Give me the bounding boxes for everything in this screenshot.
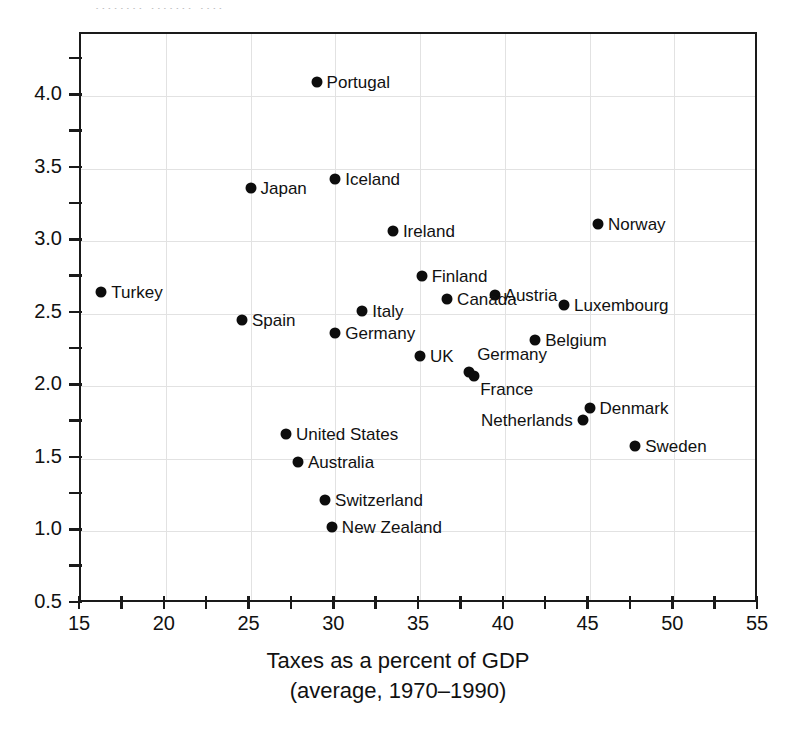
data-point-label: Germany [477, 346, 547, 363]
gridline-vertical [420, 34, 421, 600]
x-axis-tick-label: 55 [727, 612, 787, 635]
data-point-label: Portugal [327, 73, 390, 90]
y-axis-tick-label: 3.0 [0, 227, 62, 250]
x-axis-tick [713, 596, 716, 609]
data-point [592, 219, 603, 230]
data-point [357, 306, 368, 317]
data-point [530, 335, 541, 346]
y-axis-tick [69, 528, 82, 531]
gridline-vertical [335, 34, 336, 600]
data-point-label: Turkey [111, 284, 162, 301]
x-axis-tick-label: 45 [558, 612, 618, 635]
y-axis-tick [69, 93, 82, 96]
data-point [237, 314, 248, 325]
x-axis-tick-label: 40 [473, 612, 533, 635]
chart-page: ........ ....... .... PortugalIcelandJap… [0, 0, 796, 740]
data-point-label: New Zealand [342, 519, 442, 536]
y-axis-tick [69, 202, 82, 205]
x-axis-tick-label: 35 [388, 612, 448, 635]
gridline-vertical [505, 34, 506, 600]
data-point-label: France [480, 381, 533, 398]
x-axis-tick [459, 596, 462, 609]
data-point [330, 327, 341, 338]
x-axis-tick [544, 596, 547, 609]
data-point-label: Ireland [403, 223, 455, 240]
data-point-label: Norway [608, 216, 666, 233]
x-axis-tick [120, 596, 123, 609]
x-axis-tick-label: 20 [134, 612, 194, 635]
data-point [469, 371, 480, 382]
data-point [630, 440, 641, 451]
data-point-label: Italy [372, 303, 403, 320]
gridline-vertical [166, 34, 167, 600]
data-point [96, 287, 107, 298]
y-axis-tick-label: 2.5 [0, 300, 62, 323]
x-axis-tick [629, 596, 632, 609]
x-axis-tick [163, 596, 166, 609]
data-point [292, 456, 303, 467]
data-point [245, 182, 256, 193]
data-point [330, 174, 341, 185]
y-axis-tick [69, 419, 82, 422]
x-axis-title: Taxes as a percent of GDP (average, 1970… [0, 646, 796, 706]
data-point-label: United States [296, 426, 398, 443]
plot-area: PortugalIcelandJapanNorwayIrelandFinland… [79, 32, 757, 602]
gridline-horizontal [81, 96, 755, 97]
gridline-horizontal [81, 386, 755, 387]
data-point [281, 429, 292, 440]
gridline-horizontal [81, 459, 755, 460]
data-point-label: Denmark [600, 400, 669, 417]
x-axis-tick [290, 596, 293, 609]
gridline-vertical [590, 34, 591, 600]
y-axis-tick [69, 274, 82, 277]
x-axis-tick [332, 596, 335, 609]
scan-artifact-text: ........ ....... .... [95, 0, 655, 9]
x-axis-title-line2: (average, 1970–1990) [0, 676, 796, 706]
x-axis-tick [586, 596, 589, 609]
y-axis-tick [69, 347, 82, 350]
data-point [584, 403, 595, 414]
y-axis-tick [69, 601, 82, 604]
x-axis-tick-label: 50 [642, 612, 702, 635]
gridline-horizontal [81, 241, 755, 242]
y-axis-tick [69, 57, 82, 60]
data-point-label: Spain [252, 311, 295, 328]
data-point [326, 522, 337, 533]
x-axis-tick [247, 596, 250, 609]
x-axis-tick [417, 596, 420, 609]
y-axis-tick [69, 456, 82, 459]
y-axis-tick [69, 564, 82, 567]
x-axis-tick [374, 596, 377, 609]
data-point [577, 414, 588, 425]
data-point-label: Germany [345, 324, 415, 341]
data-point [559, 300, 570, 311]
y-axis-tick-label: 2.0 [0, 372, 62, 395]
data-point-label: Australia [308, 453, 374, 470]
y-axis-tick [69, 383, 82, 386]
gridline-vertical [674, 34, 675, 600]
x-axis-tick-label: 15 [49, 612, 109, 635]
data-point-label: Netherlands [481, 411, 573, 428]
y-axis-tick-label: 1.5 [0, 445, 62, 468]
y-axis-tick [69, 238, 82, 241]
data-point-label: Belgium [545, 332, 606, 349]
data-point [442, 294, 453, 305]
y-axis-tick [69, 129, 82, 132]
data-point [320, 494, 331, 505]
data-point-label: Switzerland [335, 491, 423, 508]
y-axis-tick-label: 4.0 [0, 82, 62, 105]
x-axis-tick [502, 596, 505, 609]
x-axis-tick-label: 25 [219, 612, 279, 635]
data-point-label: Finland [432, 268, 488, 285]
data-point-label: UK [430, 347, 454, 364]
data-point [311, 76, 322, 87]
data-point-label: Luxembourg [574, 297, 669, 314]
data-point [387, 226, 398, 237]
y-axis-tick [69, 166, 82, 169]
x-axis-tick [205, 596, 208, 609]
gridline-horizontal [81, 169, 755, 170]
data-point-label: Canada [457, 291, 517, 308]
x-axis-title-line1: Taxes as a percent of GDP [0, 646, 796, 676]
y-axis-tick [69, 311, 82, 314]
data-point [416, 271, 427, 282]
